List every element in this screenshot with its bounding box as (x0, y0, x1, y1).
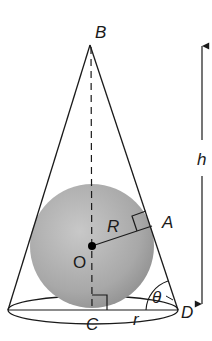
center-point-o (88, 242, 96, 250)
label-tangent-a: A (161, 213, 173, 232)
theta-leader (166, 296, 173, 300)
label-sphere-radius-r: R (107, 217, 119, 236)
label-base-center-c: C (86, 315, 99, 334)
label-base-edge-d: D (181, 303, 193, 322)
label-height-h: h (197, 150, 206, 169)
cone-sphere-diagram: B h A R O θ C r D (0, 0, 212, 341)
label-apex-b: B (95, 23, 106, 42)
label-angle-theta: θ (152, 288, 162, 307)
label-center-o: O (73, 253, 86, 272)
label-cone-radius-r: r (133, 310, 140, 329)
